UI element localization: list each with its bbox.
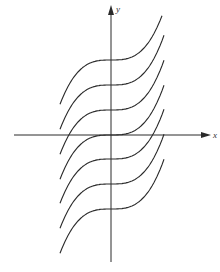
- curve-6: [60, 35, 164, 129]
- curve-2: [60, 134, 164, 228]
- curve-family-diagram: x y: [0, 0, 220, 272]
- x-axis-label: x: [212, 130, 217, 140]
- axes: [14, 12, 206, 262]
- curve-3: [60, 109, 164, 203]
- y-axis-label: y: [115, 4, 120, 14]
- y-axis-arrow-icon: [108, 5, 114, 15]
- x-axis-arrow-icon: [201, 132, 211, 138]
